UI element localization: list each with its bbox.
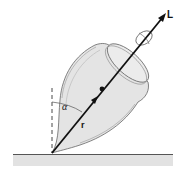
label-position-vector: r [81, 121, 85, 130]
label-tilt-angle: α [62, 102, 67, 112]
label-angular-momentum: L [167, 10, 173, 20]
spinning-top-diagram [0, 0, 184, 172]
top-body [52, 37, 155, 153]
center-of-mass-dot [100, 87, 105, 92]
ground-surface [13, 155, 173, 166]
